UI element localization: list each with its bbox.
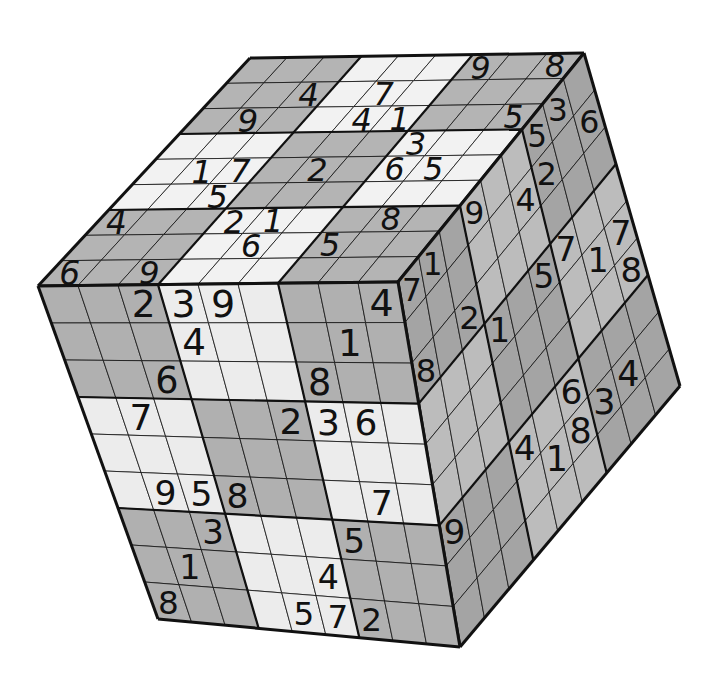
sudoku-digit: 8	[158, 584, 179, 622]
sudoku-digit: 7	[556, 231, 577, 269]
sudoku-digit: 1	[423, 246, 443, 282]
sudoku-digit: 1	[489, 312, 510, 350]
sudoku-digit: 5	[533, 258, 554, 296]
sudoku-digit: 5	[190, 474, 212, 514]
sudoku-digit: 1	[338, 321, 362, 365]
sudoku-digit: 6	[354, 402, 377, 443]
sudoku-digit: 9	[465, 195, 485, 231]
sudoku-digit: 8	[416, 352, 436, 390]
sudoku-cube: 98479415317265542186569 7195342682157178…	[0, 0, 710, 680]
sudoku-digit: 2	[361, 601, 382, 639]
sudoku-digit: 5	[344, 521, 366, 561]
sudoku-digit: 4	[515, 182, 535, 218]
sudoku-digit: 5	[527, 118, 547, 154]
sudoku-digit: 2	[537, 156, 557, 192]
sudoku-digit: 9	[154, 473, 176, 513]
sudoku-digit: 5	[294, 595, 315, 633]
sudoku-digit: 2	[132, 282, 156, 326]
front-face: 239441687236958735148572	[38, 281, 460, 647]
sudoku-digit: 2	[459, 299, 479, 337]
sudoku-digit: 7	[371, 483, 393, 523]
sudoku-digit: 7	[327, 598, 348, 636]
sudoku-digit: 9	[211, 282, 235, 326]
sudoku-digit: 3	[548, 92, 568, 128]
sudoku-digit: 2	[279, 401, 302, 442]
sudoku-digit: 3	[317, 402, 340, 443]
sudoku-digit: 1	[179, 548, 200, 587]
sudoku-digit: 4	[514, 428, 536, 468]
sudoku-digit: 7	[610, 214, 631, 253]
sudoku-digit: 1	[546, 439, 568, 479]
sudoku-digit: 8	[308, 361, 331, 404]
sudoku-digit: 1	[588, 241, 609, 280]
sudoku-digit: 4	[318, 558, 339, 597]
sudoku-digit: 6	[561, 372, 583, 412]
sudoku-cell	[318, 282, 366, 322]
sudoku-digit: 7	[129, 397, 152, 438]
sudoku-digit: 6	[155, 359, 178, 402]
sudoku-digit: 8	[570, 411, 592, 451]
sudoku-cube-illustration: 98479415317265542186569 7195342682157178…	[0, 0, 710, 680]
sudoku-digit: 3	[593, 382, 615, 422]
sudoku-digit: 4	[182, 320, 206, 364]
sudoku-digit: 6	[579, 104, 599, 140]
sudoku-digit: 4	[617, 354, 639, 394]
sudoku-digit: 8	[227, 476, 249, 516]
sudoku-digit: 3	[202, 512, 224, 552]
sudoku-digit: 7	[402, 272, 422, 308]
sudoku-digit: 4	[370, 281, 394, 325]
